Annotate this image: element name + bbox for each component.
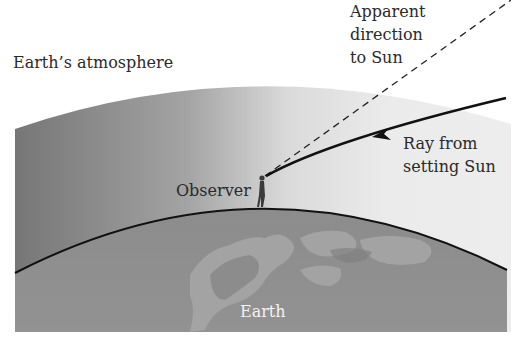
label-ray-line2: setting Sun xyxy=(403,156,496,177)
label-earth-atmosphere: Earth’s atmosphere xyxy=(13,52,173,73)
label-apparent-direction-line1: Apparent xyxy=(350,1,425,22)
label-observer: Observer xyxy=(176,180,251,201)
label-apparent-direction-line3: to Sun xyxy=(350,47,403,68)
label-earth: Earth xyxy=(240,301,286,322)
label-apparent-direction-line2: direction xyxy=(350,24,423,45)
label-ray-line1: Ray from xyxy=(403,133,477,154)
